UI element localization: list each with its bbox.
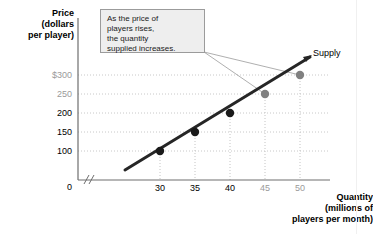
y-tick-label-200: 200 — [36, 108, 72, 118]
page-edge-line — [356, 0, 357, 234]
data-points — [156, 71, 304, 155]
x-axis-title: Quantity (millions of players per month) — [282, 192, 373, 225]
x-tick-label-45: 45 — [254, 183, 276, 193]
y-tick-label-250: 250 — [36, 89, 72, 99]
y-axis-title: Price (dollars per player) — [0, 8, 74, 41]
annotation-callout: As the price of players rises, the quant… — [100, 9, 205, 53]
data-point-40-200 — [226, 109, 234, 117]
x-tick-label-30: 30 — [149, 183, 171, 193]
supply-curve-figure: Price (dollars per player) Quantity (mil… — [0, 0, 373, 234]
x-tick-label-50: 50 — [289, 183, 311, 193]
y-tick-label-300: $300 — [36, 70, 72, 80]
data-point-35-150 — [191, 128, 199, 136]
supply-curve-label: Supply — [313, 48, 341, 58]
x-tick-label-40: 40 — [219, 183, 241, 193]
origin-label: 0 — [36, 182, 72, 192]
leader-line-to-point-45 — [204, 52, 265, 94]
data-point-50-300 — [296, 71, 304, 79]
y-tick-label-150: 150 — [36, 127, 72, 137]
gridlines — [78, 75, 330, 151]
x-tick-label-35: 35 — [184, 183, 206, 193]
data-point-30-100 — [156, 147, 164, 155]
y-tick-label-100: 100 — [36, 146, 72, 156]
droplines — [160, 75, 300, 180]
data-point-45-250 — [261, 90, 269, 98]
